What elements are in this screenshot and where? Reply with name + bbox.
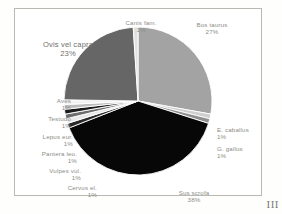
slice-label-name: Bos taurus: [183, 21, 241, 28]
slice-label-percent: 1%: [41, 191, 97, 198]
slice-label-name: Ovis vel capra: [29, 40, 107, 49]
slice-label-g-gallus: G. gallus 1%: [217, 145, 269, 159]
slice-label-percent: 1%: [15, 157, 77, 164]
plot-area: Ovis vel capra 23% Canis fam. 1% Bos tau…: [15, 9, 261, 195]
slice-label-name: Cervus el.: [41, 184, 97, 191]
slice-label-aves: Aves 1%: [21, 97, 71, 111]
slice-label-name: Pantera leo.: [15, 150, 77, 157]
slice-label-testudo: Testudo 1%: [17, 115, 71, 129]
plate-number: III: [267, 198, 280, 210]
slice-label-name: Sus scrofa: [165, 189, 223, 196]
slice-label-name: Canis fam.: [111, 19, 171, 26]
slice-label-name: Lepus eur.: [15, 133, 73, 140]
scanned-page: Ovis vel capra 23% Canis fam. 1% Bos tau…: [0, 0, 282, 214]
slice-label-percent: 1%: [21, 104, 71, 111]
slice-label-ovis-vel-capra: Ovis vel capra 23%: [29, 40, 107, 58]
slice-label-percent: 27%: [183, 28, 241, 35]
figure-frame: Ovis vel capra 23% Canis fam. 1% Bos tau…: [14, 8, 262, 196]
slice-label-vulpes-vul: Vulpes vul. 1%: [23, 167, 81, 181]
slice-label-name: Aves: [21, 97, 71, 104]
slice-label-name: E. caballus: [217, 126, 273, 133]
slice-label-lepus-eur: Lepus eur. 1%: [15, 133, 73, 147]
slice-label-sus-scrofa: Sus scrofa 38%: [165, 189, 223, 203]
slice-label-percent: 1%: [217, 152, 269, 159]
slice-label-percent: 1%: [111, 26, 171, 33]
slice-label-percent: 1%: [17, 122, 71, 129]
pie-slice: [64, 27, 138, 101]
slice-label-name: Vulpes vul.: [23, 167, 81, 174]
slice-label-name: G. gallus: [217, 145, 269, 152]
slice-label-bos-taurus: Bos taurus 27%: [183, 21, 241, 35]
slice-label-percent: 1%: [15, 140, 73, 147]
slice-label-pantera-leo: Pantera leo. 1%: [15, 150, 77, 164]
slice-label-percent: 38%: [165, 196, 223, 203]
slice-label-percent: 23%: [29, 49, 107, 58]
slice-label-canis-fam: Canis fam. 1%: [111, 19, 171, 33]
pie-slice: [138, 27, 212, 114]
slice-label-percent: 1%: [23, 174, 81, 181]
slice-label-cervus-el: Cervus el. 1%: [41, 184, 97, 198]
slice-label-name: Testudo: [17, 115, 71, 122]
slice-label-percent: 1%: [217, 133, 273, 140]
slice-label-e-caballus: E. caballus 1%: [217, 126, 273, 140]
